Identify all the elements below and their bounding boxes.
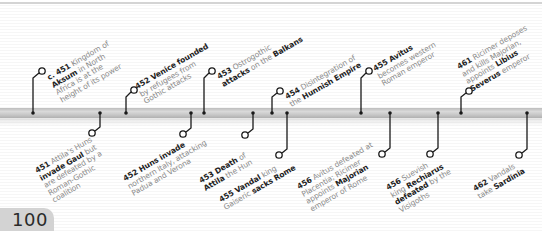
pin-e2 xyxy=(124,87,137,115)
pin-e5 xyxy=(359,68,372,115)
pin-e8 xyxy=(180,111,193,137)
pin-e6 xyxy=(459,88,472,115)
pin-e10 xyxy=(276,111,289,158)
pin-e12 xyxy=(427,111,440,157)
page-number: 100 xyxy=(0,208,54,231)
pin-e9 xyxy=(242,111,255,138)
timeline-connectors xyxy=(0,0,542,231)
timeline-page: c. 451 Kingdom ofAksum in NorthAfrica is… xyxy=(0,0,542,231)
pin-e7 xyxy=(89,111,102,136)
pin-e1 xyxy=(31,68,45,115)
pin-e4 xyxy=(270,88,283,115)
pin-e11 xyxy=(379,111,392,157)
pin-e3 xyxy=(202,68,215,115)
pin-e13 xyxy=(516,111,529,158)
